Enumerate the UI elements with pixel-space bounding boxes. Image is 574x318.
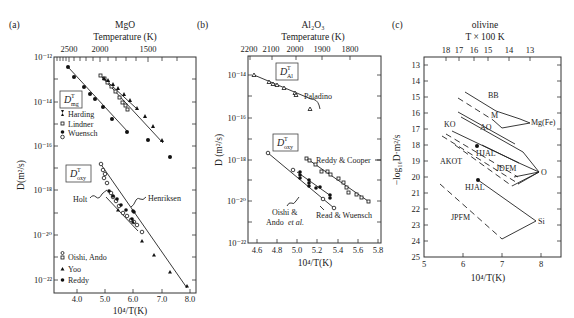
annotation-read-wuensch: Read & Wuensch [316,211,372,220]
panel-a-xlabel: 10⁴/T(K) [113,306,147,317]
svg-text:T: T [77,167,81,173]
panel-c-top-tickmarks [446,57,530,61]
panel-a-legend-oxy: Oishi, Ando Yoo Reddy [61,252,107,286]
panel-a-x-tick: 5.0 [100,294,111,304]
panel-a-y-tick: 10⁻¹⁶ [34,141,53,151]
panel-a-y-tick: 10⁻¹⁸ [34,185,53,195]
annotation-holt: Holt [73,195,88,204]
svg-text:Yoo: Yoo [68,265,81,274]
svg-text:oxy: oxy [77,175,86,181]
svg-text:T: T [71,93,75,99]
panel-a-y-tick: 10⁻²² [34,275,53,285]
panel-c-y-tick: 23 [412,220,421,230]
panel-a-x-tick: 8.0 [185,294,196,304]
panel-c-y-tick: 20 [412,172,421,182]
label-o: O [541,168,547,177]
panel-c-y-tick: 13 [412,60,421,70]
label-ao: AO [480,123,492,132]
panel-c-y-tick: 14 [412,76,421,86]
panel-c: (c) olivine T × 100 K 18 17 16 15 14 13 [392,20,561,284]
panel-b-x-tick: 4.8 [272,245,283,255]
svg-text:Harding: Harding [68,110,94,119]
panel-b-top-axis-label: Temperature (K) [281,32,344,43]
panel-c-x-tick: 7 [500,259,504,269]
panel-a-ylabel: D(m²/s) [16,160,27,190]
svg-text:Lindner: Lindner [68,120,94,129]
annotation-paladino: Paladino [304,92,332,101]
panel-b-top-tick: 2100 [263,44,280,54]
panel-a-top-tick: 1500 [140,44,157,54]
panel-b-x-tick: 5.8 [373,245,384,255]
panel-b-x-tick: 5.0 [292,245,303,255]
panel-c-top-tick: 14 [505,45,514,55]
panel-c-y-tick: 16 [412,108,421,118]
panel-c-top-tick: 13 [526,45,535,55]
panel-a-x-tick: 4.0 [72,294,83,304]
svg-text:mg: mg [71,101,79,107]
panel-a-legend-mg: Harding Lindner Wuensch [61,110,98,139]
panel-b-xlabel: 10⁴/T(K) [298,258,332,269]
label-ko: KO [444,120,456,129]
panel-b-top-tick: 2000 [287,44,304,54]
label-mgfe: Mg(Fe) [531,118,556,127]
panel-a-top-axis-label: Temperature (K) [93,32,156,43]
panel-a-y-tick: 10⁻¹⁴ [34,97,53,107]
panel-c-y-tick: 25 [412,252,421,262]
panel-b-x-tick: 4.6 [252,245,263,255]
panel-a-top-tick: 2000 [92,44,109,54]
panel-c-top-tick: 18 [442,45,451,55]
read-wuensch-leader [320,206,324,210]
panel-b-top-tick: 1800 [342,44,359,54]
panel-a-x-tick: 6.0 [128,294,139,304]
hjal-o-point [475,144,479,148]
annotation-ando: Ando [266,218,284,227]
panel-b-y-tick: 10⁻²² [228,238,247,248]
panel-b-x-tick: 5.4 [333,245,344,255]
panel-a-harding-points [102,76,164,142]
annotation-henriksen: Henriksen [148,194,181,203]
panel-a-x-tick: 7.0 [157,294,168,304]
panel-c-x-tickmarks [463,253,541,257]
panel-a-y-tick: 10⁻¹² [34,52,53,62]
panel-c-top-tick: 15 [484,45,493,55]
panel-b-top-tick: 1900 [314,44,331,54]
panel-b-ylabel: D (m²/s) [214,134,225,166]
panel-a: (a) MgO Temperature (K) 2500 2000 1500 [9,20,196,317]
figure: (a) MgO Temperature (K) 2500 2000 1500 [0,0,574,318]
svg-text:T: T [287,65,291,71]
panel-c-tag: (c) [392,20,403,31]
panel-c-ylabel: −log₁₀D·m²/s [392,134,402,185]
panel-a-y-tick: 10⁻²⁰ [33,230,53,240]
panel-b-top-tickmarks [250,56,350,60]
panel-b-y-tick: 10⁻¹⁸ [228,155,247,165]
henriksen-leader [131,197,146,207]
panel-c-top-tick: 16 [470,45,479,55]
panel-c-y-tick: 24 [412,236,421,246]
panel-a-box-doxy: D T oxy [66,165,91,182]
label-hjal-si: HJAL [465,183,485,192]
panel-b-title: Al₂O₃ [302,20,325,30]
henriksen-point [131,209,135,213]
panel-b-x-tick: 5.6 [353,245,364,255]
panel-c-y-tick: 21 [412,188,421,198]
panel-c-y-tick: 15 [412,92,421,102]
svg-text:Oishi, Ando: Oishi, Ando [68,253,107,262]
label-akot: AKOT [440,157,462,166]
annotation-et-al: et al. [288,218,304,227]
panel-c-y-tick: 18 [412,140,421,150]
panel-a-title: MgO [115,20,135,30]
panel-b-box-dal: D T Al [276,63,298,80]
svg-text:oxy: oxy [284,144,293,150]
panel-b-y-tick: 10⁻¹⁴ [228,70,247,80]
panel-a-box-dmg: D T mg [60,91,82,108]
label-si: Si [538,217,545,226]
panel-c-y-tick: 19 [412,156,421,166]
panel-b-box-doxy: D T oxy [273,134,298,151]
label-bb: BB [488,91,499,100]
label-jpfm: JPFM [451,213,470,222]
oishi-leader [287,197,299,206]
svg-text:Reddy: Reddy [68,276,89,285]
label-m: M [491,111,498,120]
panel-c-y-tick: 22 [412,204,421,214]
panel-a-top-tick: 2500 [61,44,78,54]
